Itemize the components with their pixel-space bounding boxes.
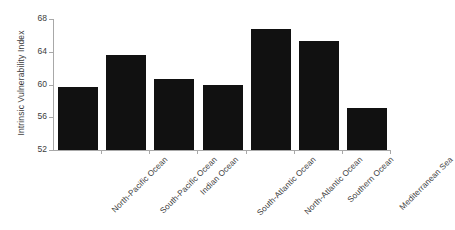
x-tick-mark (101, 150, 102, 154)
bar (251, 29, 291, 150)
plot-area: 5256606468 (53, 19, 390, 150)
x-tick-mark (294, 150, 295, 154)
bar (154, 79, 194, 150)
x-tick-mark (342, 150, 343, 154)
bar (58, 87, 98, 150)
x-tick-mark (149, 150, 150, 154)
y-axis-title: Intrinsic Vulnerability Index (14, 8, 28, 158)
bar (299, 41, 339, 150)
y-tick-label: 56 (38, 111, 47, 122)
y-tick-mark (49, 85, 53, 86)
y-tick-label: 60 (38, 79, 47, 90)
x-axis-label: Mediterranean Sea (397, 155, 455, 213)
y-tick-label: 68 (38, 13, 47, 24)
bar (106, 55, 146, 150)
x-axis-line (53, 150, 390, 151)
y-tick-label: 64 (38, 46, 47, 57)
y-tick-mark (49, 52, 53, 53)
y-axis-line (53, 19, 54, 150)
y-tick-mark (49, 19, 53, 20)
y-tick-label: 52 (38, 144, 47, 155)
x-tick-mark (390, 150, 391, 154)
bar (347, 108, 387, 150)
y-tick-mark (49, 150, 53, 151)
x-tick-mark (246, 150, 247, 154)
y-tick-mark (49, 117, 53, 118)
x-tick-mark (197, 150, 198, 154)
bar (203, 85, 243, 150)
